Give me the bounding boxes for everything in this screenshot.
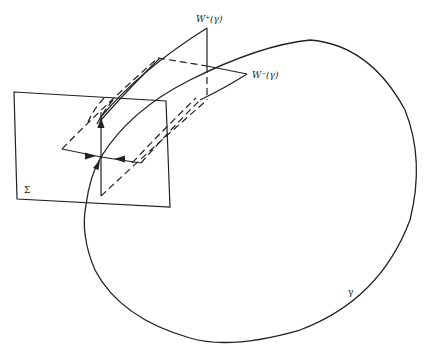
orbit-label: γ bbox=[348, 287, 353, 297]
unstable-manifold-sheet bbox=[88, 28, 207, 196]
arrow-up-icon bbox=[98, 117, 105, 128]
arrow-right-icon bbox=[85, 153, 96, 160]
manifold-diagram: W⁺(γ) W⁻(γ) Σ γ bbox=[0, 0, 429, 354]
periodic-orbit bbox=[84, 40, 416, 343]
stable-manifold-label: W⁻(γ) bbox=[252, 70, 279, 80]
arrow-left-icon bbox=[114, 156, 125, 163]
section-plane bbox=[14, 92, 170, 207]
fixed-point bbox=[100, 156, 103, 159]
fixed-point-arrows bbox=[85, 117, 125, 170]
section-label: Σ bbox=[24, 185, 30, 195]
unstable-manifold-label: W⁺(γ) bbox=[196, 14, 223, 24]
arrow-orbit-icon bbox=[93, 160, 100, 170]
